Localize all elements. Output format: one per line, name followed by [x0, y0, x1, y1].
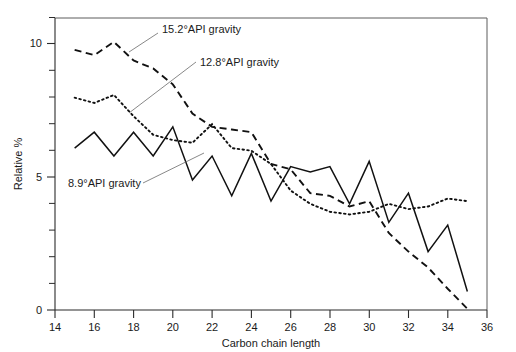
x-tick-label-34: 34 [442, 321, 454, 333]
y-axis-title: Relative % [12, 137, 24, 190]
y-tick-label-10: 10 [30, 37, 42, 49]
chart-background [0, 0, 516, 352]
x-tick-label-26: 26 [285, 321, 297, 333]
chart-figure: 10 5 0 14 16 18 20 22 24 26 28 30 32 34 [0, 0, 516, 352]
x-tick-label-22: 22 [206, 321, 218, 333]
x-tick-label-16: 16 [88, 321, 100, 333]
annotation-12-8-api: 12.8°API gravity [200, 56, 279, 68]
line-chart: 10 5 0 14 16 18 20 22 24 26 28 30 32 34 [0, 0, 516, 352]
annotation-8-9-api: 8.9°API gravity [68, 177, 141, 189]
y-tick-label-0: 0 [36, 304, 42, 316]
x-tick-label-32: 32 [402, 321, 414, 333]
x-tick-label-20: 20 [167, 321, 179, 333]
y-tick-label-5: 5 [36, 171, 42, 183]
x-tick-label-36: 36 [481, 321, 493, 333]
x-tick-label-30: 30 [363, 321, 375, 333]
x-tick-label-18: 18 [127, 321, 139, 333]
annotation-15-2-api: 15.2°API gravity [162, 23, 241, 35]
x-tick-label-14: 14 [49, 321, 61, 333]
x-axis-title: Carbon chain length [222, 337, 320, 349]
x-tick-label-24: 24 [245, 321, 257, 333]
x-tick-label-28: 28 [324, 321, 336, 333]
